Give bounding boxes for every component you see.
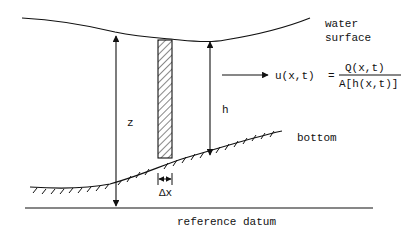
water-surface-label-line2: surface <box>325 32 371 44</box>
reference-datum-label: reference datum <box>177 216 276 227</box>
bottom-hatching <box>33 131 274 194</box>
channel-bottom-line <box>30 131 282 188</box>
equation-equals: = <box>328 70 335 82</box>
elevation-label: z <box>127 117 134 129</box>
equation-lhs: u(x,t) <box>275 70 315 82</box>
open-channel-flow-diagram: water surface h z bottom Δx reference da… <box>0 0 420 227</box>
velocity-equation: u(x,t) = Q(x,t) A[h(x,t)] <box>275 62 401 90</box>
water-surface-line <box>22 18 310 42</box>
control-volume-column <box>158 40 172 158</box>
bottom-label: bottom <box>297 132 337 144</box>
water-surface-label-line1: water <box>325 18 358 30</box>
delta-x-label: Δx <box>159 187 173 199</box>
equation-denominator: A[h(x,t)] <box>339 78 398 90</box>
depth-label: h <box>222 104 229 116</box>
equation-numerator: Q(x,t) <box>345 62 385 74</box>
